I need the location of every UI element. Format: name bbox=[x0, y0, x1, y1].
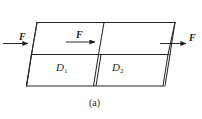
region-d1-subscript: 1 bbox=[64, 67, 68, 75]
force-label-left: F bbox=[19, 32, 26, 42]
figure-caption: (a) bbox=[89, 98, 100, 108]
force-arrows-group bbox=[3, 42, 186, 44]
section-plane-lower-edge bbox=[94, 55, 99, 87]
force-label-right: F bbox=[189, 33, 196, 43]
prism-body-edges-group bbox=[27, 23, 176, 87]
section-plane-upper-edge bbox=[99, 23, 105, 55]
region-label-d2: D2 bbox=[112, 62, 123, 73]
force-label-middle: F bbox=[76, 30, 83, 40]
region-label-d1: D1 bbox=[56, 62, 67, 73]
figure-container: F F F D1 D2 (a) bbox=[0, 0, 202, 119]
region-d2-subscript: 2 bbox=[120, 67, 124, 75]
left-end-face-lower-slant-edge bbox=[27, 55, 32, 87]
region-d1-letter: D bbox=[56, 61, 64, 73]
right-end-face-outer-edge bbox=[170, 23, 175, 55]
prism-diagram-svg bbox=[0, 0, 202, 119]
section-plane-thickness-edge bbox=[96, 55, 101, 87]
left-end-face-slant-edge bbox=[32, 23, 38, 55]
region-d2-letter: D bbox=[112, 61, 120, 73]
